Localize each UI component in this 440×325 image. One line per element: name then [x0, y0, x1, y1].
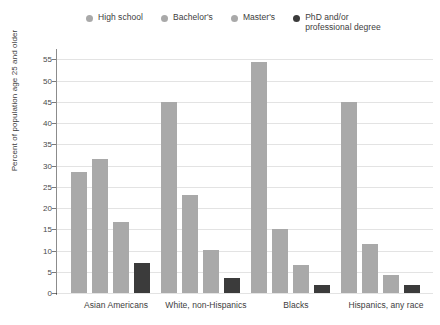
bar[interactable] — [161, 102, 177, 293]
chart-legend: High schoolBachelor'sMaster'sPhD and/orp… — [0, 12, 440, 42]
plot-area — [57, 51, 433, 293]
legend-item-label: High school — [98, 12, 143, 22]
bar-group — [341, 51, 420, 293]
y-axis-tick-label: 40 — [6, 119, 52, 128]
bar[interactable] — [134, 263, 150, 293]
bar[interactable] — [383, 275, 399, 293]
legend-item-label: Bachelor's — [173, 12, 213, 22]
bar-group — [161, 51, 240, 293]
legend-swatch-icon — [231, 15, 238, 22]
y-axis-tick-label: 35 — [6, 140, 52, 149]
bar[interactable] — [182, 195, 198, 293]
bar[interactable] — [341, 102, 357, 293]
bar[interactable] — [224, 278, 240, 293]
y-axis-tick-label: 50 — [6, 76, 52, 85]
x-axis-category-label: Hispanics, any race — [326, 300, 440, 310]
y-axis-tick-label: 15 — [6, 225, 52, 234]
legend-swatch-icon — [86, 15, 93, 22]
bar[interactable] — [113, 222, 129, 293]
bar[interactable] — [362, 244, 378, 293]
y-axis-tick-label: 45 — [6, 97, 52, 106]
legend-item-label: Master's — [243, 12, 275, 22]
bar[interactable] — [251, 62, 267, 293]
y-axis-tick-label: 55 — [6, 55, 52, 64]
y-axis-tick-label: 20 — [6, 204, 52, 213]
legend-item[interactable]: High school — [86, 12, 143, 22]
y-axis-tick-label: 0 — [6, 289, 52, 298]
legend-swatch-icon — [161, 15, 168, 22]
y-axis-tick-label: 10 — [6, 246, 52, 255]
legend-item[interactable]: Bachelor's — [161, 12, 213, 22]
bar[interactable] — [203, 250, 219, 293]
bar[interactable] — [272, 229, 288, 293]
legend-item[interactable]: Master's — [231, 12, 275, 22]
bar[interactable] — [293, 265, 309, 293]
legend-item-label: PhD and/orprofessional degree — [305, 12, 381, 32]
gridline — [57, 293, 433, 294]
y-axis-tick-label: 30 — [6, 161, 52, 170]
bar-group — [71, 51, 150, 293]
y-axis-tick-label: 25 — [6, 182, 52, 191]
y-axis-tick-label: 5 — [6, 267, 52, 276]
bar[interactable] — [92, 159, 108, 293]
legend-swatch-icon — [293, 15, 300, 22]
y-axis-tick-labels: 0510152025303540455055 — [0, 0, 52, 325]
bar[interactable] — [71, 172, 87, 293]
bar[interactable] — [404, 285, 420, 293]
legend-item[interactable]: PhD and/orprofessional degree — [293, 12, 381, 32]
bar[interactable] — [314, 285, 330, 293]
bar-group — [251, 51, 330, 293]
